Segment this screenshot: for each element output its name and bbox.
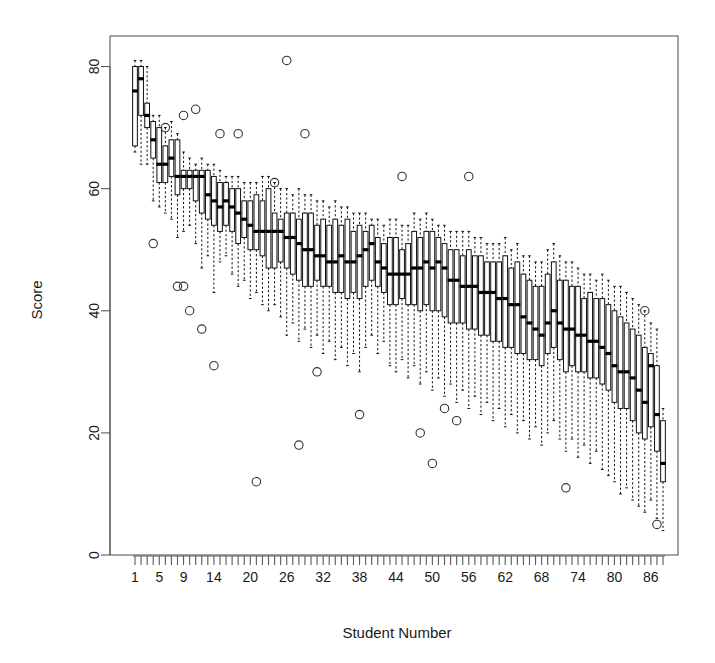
box-plot-item <box>423 213 429 372</box>
box-iqr <box>424 231 429 304</box>
box-iqr <box>491 262 496 341</box>
box-iqr <box>479 256 484 335</box>
outlier-point <box>452 416 460 424</box>
box-plot-item <box>452 231 460 424</box>
x-tick-label: 50 <box>425 569 441 585</box>
x-tick-label: 86 <box>643 569 659 585</box>
box-plot-item <box>539 262 545 445</box>
box-iqr <box>551 262 556 347</box>
box-plot-item <box>398 172 406 359</box>
box-plot-item <box>575 268 581 457</box>
box-plot-item <box>338 207 344 347</box>
box-plot-item <box>490 244 496 421</box>
box-plot-item <box>223 176 229 255</box>
box-iqr <box>472 256 477 329</box>
box-plot-item <box>210 164 218 370</box>
box-plot-item <box>508 250 514 415</box>
box-plot-item <box>161 123 169 213</box>
box-plot-item <box>326 207 332 341</box>
box-iqr <box>315 225 320 280</box>
box-iqr <box>181 170 186 188</box>
outlier-point <box>210 362 218 370</box>
box-iqr <box>388 237 393 304</box>
box-plot-item <box>247 183 253 299</box>
y-tick-label: 40 <box>86 303 102 319</box>
x-tick-label: 26 <box>279 569 295 585</box>
x-tick-label: 20 <box>243 569 259 585</box>
box-iqr <box>321 219 326 286</box>
box-iqr <box>430 231 435 310</box>
box-iqr <box>545 274 550 353</box>
box-iqr <box>618 317 623 409</box>
box-iqr <box>442 244 447 317</box>
box-iqr <box>175 140 180 195</box>
box-plot-item <box>144 67 150 165</box>
box-plot-item <box>266 176 272 310</box>
box-plot-item <box>648 323 654 500</box>
x-tick-label: 32 <box>315 569 331 585</box>
box-plot-item <box>405 225 411 378</box>
box-plot-item <box>630 299 636 500</box>
outlier-point <box>355 410 363 418</box>
box-iqr <box>363 231 368 286</box>
box-plot-item <box>332 201 338 360</box>
box-plot-item <box>216 129 224 261</box>
box-iqr <box>485 262 490 335</box>
outlier-point <box>216 129 224 137</box>
x-tick-label: 62 <box>497 569 513 585</box>
x-tick-label: 68 <box>534 569 550 585</box>
box-plot-item <box>581 274 587 445</box>
box-iqr <box>260 201 265 256</box>
y-tick-label: 0 <box>86 551 102 559</box>
box-iqr <box>460 256 465 323</box>
box-iqr <box>564 280 569 372</box>
box-iqr <box>557 280 562 359</box>
box-iqr <box>497 262 502 341</box>
outlier-point <box>191 105 199 113</box>
box-iqr <box>527 280 532 359</box>
box-iqr <box>272 213 277 268</box>
outlier-point <box>653 520 661 528</box>
box-iqr <box>327 225 332 286</box>
box-layer <box>132 56 666 530</box>
box-plot-item <box>241 183 247 281</box>
box-plot-item <box>593 280 599 451</box>
box-plot-item <box>557 256 563 439</box>
box-plot-item <box>387 219 393 366</box>
box-iqr <box>624 323 629 408</box>
outlier-point <box>398 172 406 180</box>
box-iqr <box>266 189 271 268</box>
boxplot-svg: 02040608015914202632384450566268748086 S… <box>0 0 715 663</box>
box-iqr <box>357 225 362 298</box>
outlier-point <box>295 441 303 449</box>
x-tick-label: 9 <box>180 569 188 585</box>
x-tick-label: 44 <box>388 569 404 585</box>
box-plot-item <box>545 250 551 433</box>
box-plot-item <box>636 305 642 506</box>
box-plot-item <box>465 172 473 408</box>
box-plot-item <box>551 244 557 421</box>
box-iqr <box>448 250 453 323</box>
box-plot-item <box>173 134 181 291</box>
box-iqr <box>236 189 241 244</box>
box-iqr <box>466 250 471 329</box>
box-iqr <box>503 256 508 348</box>
box-plot-item <box>198 158 206 333</box>
label-layer: Score Student Number <box>28 280 452 641</box>
y-tick-label: 80 <box>86 59 102 75</box>
box-plot-item <box>355 213 363 419</box>
box-plot-item <box>205 164 211 256</box>
box-iqr <box>588 292 593 377</box>
y-tick-label: 20 <box>86 425 102 441</box>
box-iqr <box>333 219 338 292</box>
outlier-point <box>179 111 187 119</box>
box-plot-item <box>351 213 357 353</box>
box-iqr <box>436 237 441 310</box>
box-iqr <box>278 219 283 262</box>
box-plot-item <box>375 219 381 353</box>
box-plot-item <box>369 219 375 335</box>
x-tick-label: 14 <box>206 569 222 585</box>
box-iqr <box>230 189 235 232</box>
box-plot-item <box>278 189 284 317</box>
box-plot-item <box>229 176 235 274</box>
